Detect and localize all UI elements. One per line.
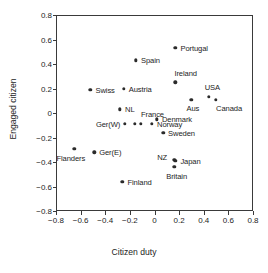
y-axis-tick-label: −0.2 — [36, 133, 52, 142]
scatter-plot-figure: PortugalSpainIrelandSwissAustriaUSAAusCa… — [0, 0, 268, 273]
data-point-label: Ireland — [174, 70, 197, 78]
data-point-label: NL — [125, 106, 135, 114]
data-point-label: Flanders — [56, 155, 85, 163]
y-axis-tick — [53, 89, 57, 90]
y-axis-tick — [53, 113, 57, 114]
x-axis-tick — [81, 211, 82, 215]
x-axis-title: Citizen duty — [0, 247, 268, 257]
data-point-label: Ger(W) — [96, 121, 120, 129]
data-point-label: France — [141, 111, 164, 119]
x-axis-tick-label: 0.6 — [223, 216, 234, 225]
data-point-label: Swiss — [95, 87, 114, 95]
data-point-label: Norway — [157, 121, 182, 129]
y-axis-title: Engaged citizen — [8, 49, 18, 169]
data-point-label: NZ — [157, 154, 167, 162]
y-axis-tick-label: 0 — [48, 109, 52, 118]
y-axis-tick-label: 0.8 — [41, 11, 52, 20]
x-axis-tick — [130, 211, 131, 215]
data-point-label: Finland — [127, 179, 151, 187]
x-axis-tick — [56, 211, 57, 215]
x-axis-tick — [228, 211, 229, 215]
y-axis-tick — [53, 15, 57, 16]
x-axis-tick-label: 0.8 — [247, 216, 258, 225]
data-point-label: Aus — [186, 105, 199, 113]
x-axis-tick — [155, 211, 156, 215]
y-axis-tick-label: −0.8 — [36, 207, 52, 216]
x-axis-tick — [204, 211, 205, 215]
y-axis-tick-label: −0.6 — [36, 182, 52, 191]
x-axis-tick-label: 0 — [152, 216, 156, 225]
x-axis-tick-label: −0.2 — [122, 216, 138, 225]
y-axis-tick-label: 0.6 — [41, 35, 52, 44]
y-axis-tick — [53, 162, 57, 163]
data-point-label: Britain — [166, 173, 187, 181]
data-point-label: Portugal — [180, 45, 207, 53]
x-axis-tick-label: −0.4 — [97, 216, 113, 225]
y-axis-tick — [53, 138, 57, 139]
y-axis-tick-label: 0.4 — [41, 60, 52, 69]
data-point-label: Canada — [216, 105, 242, 113]
data-point-label: Sweden — [168, 130, 195, 138]
y-axis-tick — [53, 40, 57, 41]
x-axis-tick — [105, 211, 106, 215]
data-point-label: Spain — [141, 57, 160, 65]
x-axis-tick — [253, 211, 254, 215]
data-point-label: USA — [205, 84, 220, 92]
x-axis-tick-label: 0.2 — [174, 216, 185, 225]
data-point-label: Japan — [180, 158, 200, 166]
x-axis-tick-label: 0.4 — [198, 216, 209, 225]
x-axis-tick — [179, 211, 180, 215]
y-axis-tick-label: 0.2 — [41, 84, 52, 93]
y-axis-tick — [53, 211, 57, 212]
x-axis-tick-label: −0.6 — [73, 216, 89, 225]
y-axis-tick — [53, 187, 57, 188]
data-point-label: Austria — [129, 86, 152, 94]
y-axis-tick — [53, 64, 57, 65]
y-axis-tick-label: −0.4 — [36, 158, 52, 167]
x-axis-tick-label: −0.8 — [48, 216, 64, 225]
data-point-label: Ger(E) — [99, 149, 121, 157]
